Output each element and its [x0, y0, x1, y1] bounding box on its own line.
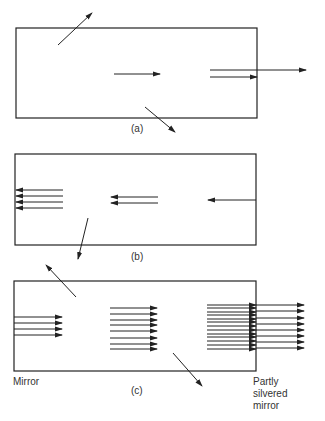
oblique-ray-arrow — [58, 13, 92, 45]
oblique-ray-arrow — [173, 353, 202, 386]
partly-silvered-mirror-label-line3: mirror — [253, 400, 279, 411]
panel-b — [15, 154, 256, 259]
panel-a — [16, 13, 306, 132]
laser-cavity-diagram — [0, 0, 325, 421]
caption-b: (b) — [131, 251, 143, 262]
cavity-box-a — [16, 28, 257, 118]
panel-c — [14, 265, 304, 386]
oblique-ray-arrow — [78, 218, 88, 259]
mirror-label: Mirror — [13, 376, 39, 387]
caption-a: (a) — [131, 123, 143, 134]
caption-c: (c) — [131, 385, 143, 396]
partly-silvered-mirror-label-line1: Partly — [253, 376, 279, 387]
oblique-ray-arrow — [145, 107, 175, 132]
partly-silvered-mirror-label-line2: silvered — [253, 388, 287, 399]
